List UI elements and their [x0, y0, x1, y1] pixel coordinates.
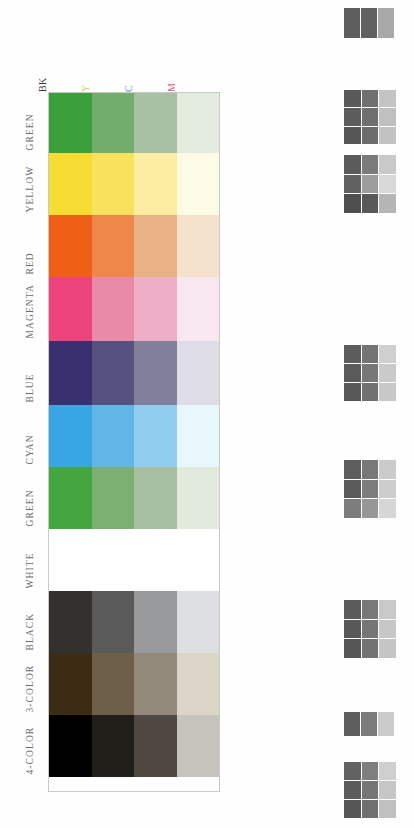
patch-grid: [344, 90, 396, 144]
patch-cell: [379, 480, 396, 499]
swatch-row-yellow-1: [49, 153, 219, 215]
patch-cell: [344, 460, 361, 479]
swatch-magenta-black: [49, 277, 92, 341]
patch-cell: [361, 8, 377, 38]
patch-cell: [361, 712, 377, 736]
patch-cell: [344, 600, 361, 619]
swatch-white-yellow: [92, 529, 135, 591]
patch-cell: [362, 762, 379, 780]
row-label-cyan-5: CYAN: [22, 404, 48, 466]
swatch-green-magenta: [177, 93, 220, 153]
patch-cell: [379, 639, 396, 658]
patch-cell: [362, 460, 379, 479]
swatch-cyan-magenta: [177, 405, 220, 467]
patch-cell: [362, 90, 379, 107]
swatch-yellow-cyan: [134, 153, 177, 215]
patch-grid: [344, 155, 396, 213]
patch-group-8: [344, 762, 396, 818]
patch-cell: [379, 800, 396, 818]
swatch-green-cyan: [134, 93, 177, 153]
row-label-3-color-9: 3-COLOR: [22, 652, 48, 714]
patch-cell: [344, 383, 361, 401]
swatch-green-cyan: [134, 467, 177, 529]
swatch-blue-cyan: [134, 341, 177, 405]
swatch-row-magenta-3: [49, 277, 219, 341]
patch-cell: [379, 460, 396, 479]
patch-cell: [344, 620, 361, 639]
patch-cell: [379, 600, 396, 619]
swatch-4-color-magenta: [177, 715, 220, 777]
patch-cell: [344, 364, 361, 382]
swatch-cyan-cyan: [134, 405, 177, 467]
swatch-4-color-yellow: [92, 715, 135, 777]
row-label-text: YELLOW: [26, 165, 36, 212]
column-header-label: M: [167, 83, 177, 92]
swatch-row-cyan-5: [49, 405, 219, 467]
row-label-text: RED: [26, 252, 36, 274]
patch-cell: [344, 90, 361, 107]
swatch-row-3-color-9: [49, 653, 219, 715]
color-swatch-grid: [48, 92, 220, 792]
patch-cell: [379, 383, 396, 401]
swatch-yellow-yellow: [92, 153, 135, 215]
swatch-magenta-yellow: [92, 277, 135, 341]
swatch-black-magenta: [177, 591, 220, 653]
patch-cell: [344, 712, 360, 736]
swatch-black-yellow: [92, 591, 135, 653]
patch-cell: [362, 194, 379, 213]
patch-cell: [344, 8, 360, 38]
patch-group-1: [344, 8, 394, 38]
patch-cell: [378, 8, 394, 38]
swatch-row-red-2: [49, 215, 219, 277]
swatch-red-yellow: [92, 215, 135, 277]
patch-cell: [362, 383, 379, 401]
color-chart: BKYCM GREENYELLOWREDMAGENTABLUECYANGREEN…: [0, 0, 240, 828]
patch-cell: [379, 762, 396, 780]
swatch-row-blue-4: [49, 341, 219, 405]
swatch-yellow-black: [49, 153, 92, 215]
swatch-4-color-black: [49, 715, 92, 777]
patch-cell: [379, 194, 396, 213]
patch-cell: [362, 364, 379, 382]
patch-group-2: [344, 90, 396, 144]
swatch-blue-black: [49, 341, 92, 405]
patch-cell: [379, 175, 396, 194]
patch-cell: [344, 345, 361, 363]
patch-group-5: [344, 460, 396, 518]
patch-cell: [379, 499, 396, 518]
test-chart-page: BKYCM GREENYELLOWREDMAGENTABLUECYANGREEN…: [0, 0, 414, 828]
patch-cell: [344, 175, 361, 194]
patch-cell: [344, 194, 361, 213]
patch-cell: [344, 480, 361, 499]
row-label-strip: GREENYELLOWREDMAGENTABLUECYANGREENWHITEB…: [22, 92, 48, 792]
row-label-text: MAGENTA: [26, 284, 36, 338]
patch-cell: [379, 90, 396, 107]
column-header-label: C: [124, 85, 134, 92]
swatch-row-white-7: [49, 529, 219, 591]
patch-cell: [378, 712, 394, 736]
swatch-white-black: [49, 529, 92, 591]
patch-cell: [362, 108, 379, 125]
swatch-blue-yellow: [92, 341, 135, 405]
gray-test-patch-column: [338, 0, 414, 828]
patch-cell: [379, 127, 396, 144]
patch-cell: [379, 620, 396, 639]
patch-cell: [379, 781, 396, 799]
swatch-green-yellow: [92, 467, 135, 529]
swatch-red-black: [49, 215, 92, 277]
swatch-3-color-yellow: [92, 653, 135, 715]
row-label-text: WHITE: [26, 552, 36, 588]
swatch-row-black-8: [49, 591, 219, 653]
row-label-text: 4-COLOR: [26, 726, 36, 774]
swatch-3-color-magenta: [177, 653, 220, 715]
column-header-label: Y: [81, 84, 91, 92]
row-label-text: CYAN: [26, 434, 36, 464]
swatch-row-green-0: [49, 93, 219, 153]
swatch-3-color-cyan: [134, 653, 177, 715]
patch-cell: [362, 639, 379, 658]
patch-grid: [344, 712, 394, 736]
patch-cell: [362, 499, 379, 518]
row-label-blue-4: BLUE: [22, 340, 48, 404]
swatch-black-cyan: [134, 591, 177, 653]
row-label-text: BLACK: [26, 612, 36, 650]
